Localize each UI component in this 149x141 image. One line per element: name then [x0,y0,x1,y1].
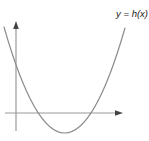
x-axis-arrowhead-icon [115,110,123,116]
y-axis-arrowhead-icon [13,21,19,29]
function-graph-canvas: y = h(x) [0,0,149,141]
function-graph-figure: y = h(x) [0,0,149,141]
curve-label: y = h(x) [115,8,148,19]
parabola-curve [4,27,125,133]
